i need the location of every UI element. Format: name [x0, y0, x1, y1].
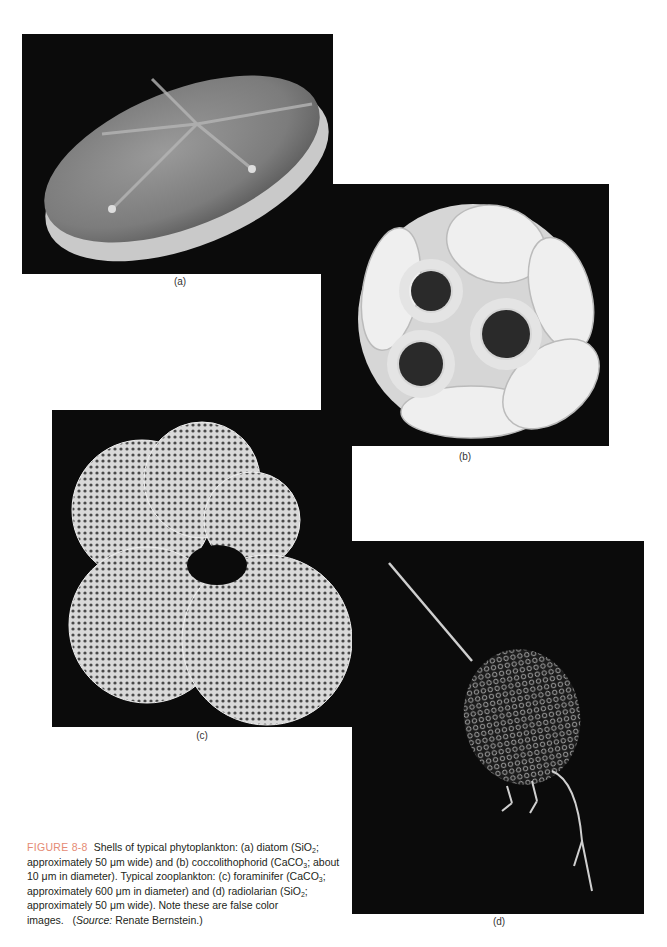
panel-b-label: (b)	[445, 451, 485, 462]
panel-d-label: (d)	[479, 916, 519, 927]
caption-text-1: Shells of typical phytoplankton: (a) dia…	[94, 841, 312, 853]
panel-c-label: (c)	[182, 730, 222, 741]
source-text: Renate Bernstein.)	[112, 914, 202, 926]
panel-d-radiolarian-image	[352, 541, 644, 914]
panel-a-label: (a)	[160, 276, 200, 287]
radiolarian-illustration	[352, 541, 644, 914]
diatom-illustration	[22, 34, 333, 274]
panel-a-diatom-image	[22, 34, 333, 274]
source-label: Source:	[76, 914, 112, 926]
foraminifer-illustration	[52, 410, 352, 727]
panel-b-coccolithophorid-image	[321, 184, 609, 446]
panel-c-foraminifer-image	[52, 410, 352, 727]
figure-caption: FIGURE 8-8Shells of typical phytoplankto…	[27, 840, 347, 928]
coccolithophorid-illustration	[321, 184, 609, 446]
figure-number: FIGURE 8-8	[27, 841, 88, 853]
